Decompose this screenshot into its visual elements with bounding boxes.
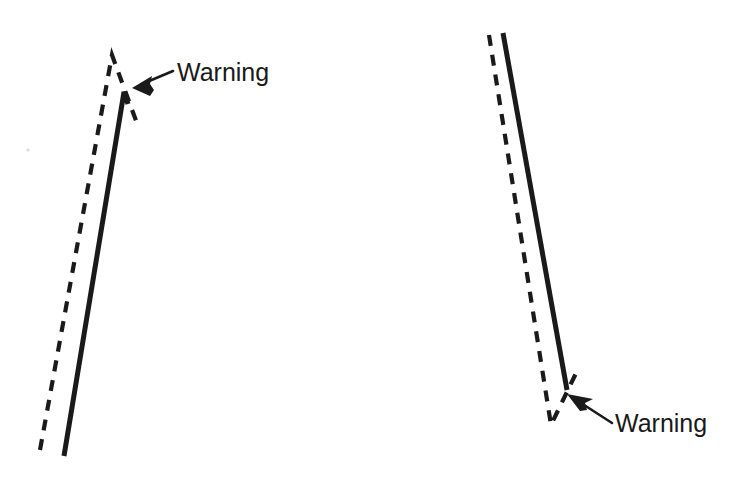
right-warning-label: Warning	[615, 409, 707, 437]
right-panel: Warning	[489, 33, 707, 437]
warning-figure-svg: Warning annotation on paired solid and d…	[0, 0, 737, 480]
scan-speck	[26, 148, 29, 151]
dashed-trace-left	[40, 55, 138, 450]
figure-canvas: Warning annotation on paired solid and d…	[0, 0, 737, 480]
left-arrow-head-icon	[132, 76, 154, 96]
left-panel: Warning	[40, 55, 269, 456]
dashed-trace-right	[489, 35, 579, 425]
left-warning-label: Warning	[177, 58, 269, 86]
